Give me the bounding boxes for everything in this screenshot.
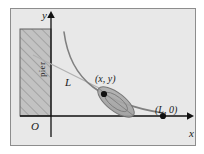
point-xy-dot [101,91,107,97]
origin-label: O [31,121,39,132]
y-axis-arrowhead [47,11,55,18]
figure-container: pier y x O L (x, y) (L, 0) [0,0,204,154]
x-axis-arrowhead [187,112,194,120]
point-xy-label: (x, y) [95,74,116,84]
pier-label: pier [37,62,47,77]
point-L0-label: (L, 0) [155,105,177,115]
y-axis-label: y [42,10,47,21]
rope-length-label: L [65,77,71,88]
x-axis-label: x [189,128,194,139]
